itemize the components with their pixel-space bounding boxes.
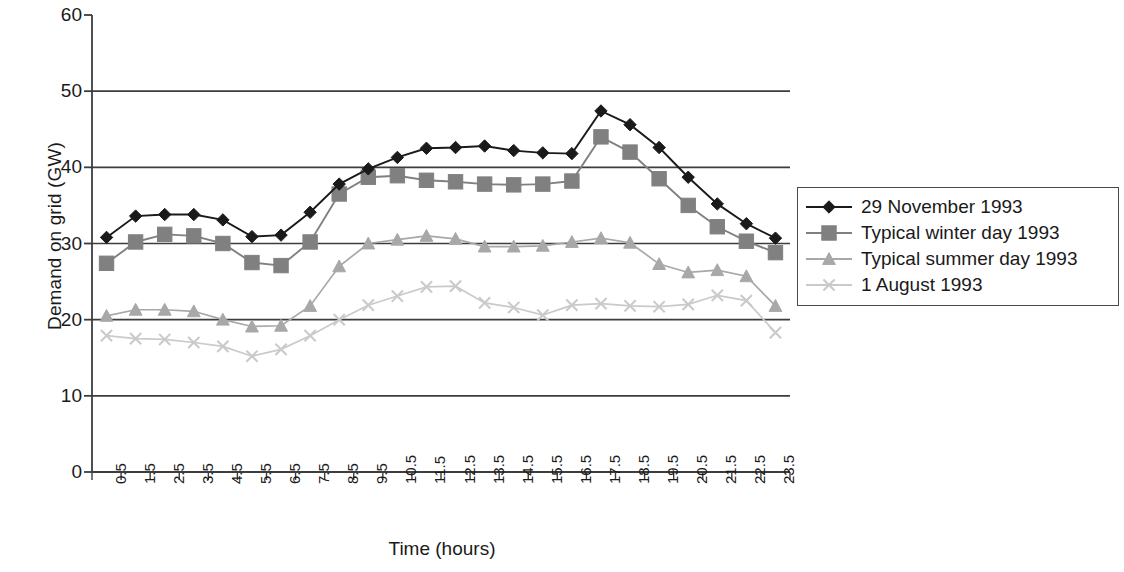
x-tick-label: 5.5 xyxy=(258,463,273,484)
legend-key-x-icon xyxy=(806,274,852,296)
legend-marker-x-icon xyxy=(818,274,840,296)
chart-figure: Demand on grid (GW) 0102030405060 0.51.5… xyxy=(0,0,1124,572)
x-tick-label: 4.5 xyxy=(229,463,244,484)
legend-marker-diamond-icon xyxy=(818,196,840,218)
x-tick-label: 19.5 xyxy=(665,455,680,484)
x-tick-label: 6.5 xyxy=(287,463,302,484)
legend-label: 1 August 1993 xyxy=(861,274,983,296)
diamond-marker xyxy=(823,201,835,213)
legend-key-square-icon xyxy=(806,222,852,244)
legend-item-3[interactable]: Typical summer day 1993 xyxy=(806,246,1108,272)
x-tick-label: 18.5 xyxy=(636,455,651,484)
x-tick-label: 0.5 xyxy=(113,463,128,484)
x-tick-label: 10.5 xyxy=(403,455,418,484)
x-marker xyxy=(823,279,834,290)
legend-item-1[interactable]: 29 November 1993 xyxy=(806,194,1108,220)
x-tick-label: 15.5 xyxy=(549,455,564,484)
x-tick-label: 7.5 xyxy=(316,463,331,484)
legend-marker-square-icon xyxy=(818,222,840,244)
data-point-marker xyxy=(822,226,836,240)
legend-item-2[interactable]: Typical winter day 1993 xyxy=(806,220,1108,246)
x-tick-label: 11.5 xyxy=(432,456,447,484)
square-marker xyxy=(822,226,836,240)
x-tick-label: 9.5 xyxy=(374,463,389,484)
x-tick-label: 13.5 xyxy=(491,455,506,484)
legend-item-4[interactable]: 1 August 1993 xyxy=(806,272,1108,298)
legend-label: Typical winter day 1993 xyxy=(861,222,1060,244)
x-tick-label: 22.5 xyxy=(752,455,767,484)
legend-marker-triangle-icon xyxy=(818,248,840,270)
x-tick-label: 17.5 xyxy=(607,455,622,484)
legend-key-triangle-icon xyxy=(806,248,852,270)
x-tick-label: 2.5 xyxy=(171,463,186,484)
x-tick-label: 1.5 xyxy=(142,463,157,484)
x-tick-label: 12.5 xyxy=(462,455,477,484)
x-tick-label: 14.5 xyxy=(520,455,535,484)
triangle-marker xyxy=(823,253,836,265)
x-axis-title: Time (hours) xyxy=(92,538,792,560)
x-tick-label: 16.5 xyxy=(578,455,593,484)
data-point-marker xyxy=(823,253,836,265)
data-point-marker xyxy=(823,201,835,213)
x-tick-label: 21.5 xyxy=(723,455,738,484)
x-tick-label: 20.5 xyxy=(694,455,709,484)
legend-label: 29 November 1993 xyxy=(861,196,1023,218)
x-tick-label: 3.5 xyxy=(200,463,215,484)
chart-legend: 29 November 1993Typical winter day 1993T… xyxy=(797,187,1119,306)
x-tick-label: 8.5 xyxy=(345,463,360,484)
data-point-marker xyxy=(823,279,834,290)
x-tick-label: 23.5 xyxy=(781,455,796,484)
legend-key-diamond-icon xyxy=(806,196,852,218)
legend-label: Typical summer day 1993 xyxy=(861,248,1078,270)
